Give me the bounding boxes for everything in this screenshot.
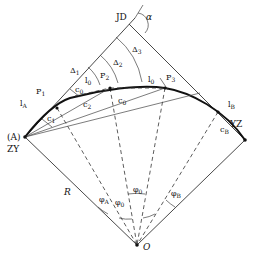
curve-geometry-diagram: JD α (A) ZY YZ O R lA P1 P2 P3 Δ1 Δ2 Δ3 … xyxy=(0,0,261,261)
phiB-arc xyxy=(166,200,175,207)
label-c0a: c0 xyxy=(75,85,83,95)
point-o xyxy=(135,243,139,247)
label-lA: lA xyxy=(20,99,28,109)
label-yz: YZ xyxy=(229,119,242,129)
label-delta1: Δ1 xyxy=(70,66,80,76)
transition-curve xyxy=(25,87,245,140)
label-l0a: l0 xyxy=(85,76,92,86)
label-c1: c1 xyxy=(47,114,55,124)
label-l0b: l0 xyxy=(148,75,155,85)
radius-line-zy xyxy=(25,137,137,245)
phi0a-arc xyxy=(119,218,132,219)
phiA-arc xyxy=(98,207,108,214)
point-p2 xyxy=(108,86,111,89)
phi0c-arc xyxy=(143,214,155,218)
point-zy xyxy=(23,135,27,139)
point-p3 xyxy=(163,86,166,89)
label-a-point: (A) xyxy=(7,132,21,142)
label-c0b: c0 xyxy=(118,96,126,106)
label-p1: P1 xyxy=(36,87,45,97)
label-p2: P2 xyxy=(100,71,109,81)
label-r: R xyxy=(63,187,71,197)
point-pb xyxy=(216,110,219,113)
delta3-arc xyxy=(116,37,142,82)
label-phi0b: φ0 xyxy=(133,185,143,195)
label-phiA: φA xyxy=(99,195,110,205)
label-phi0a: φ0 xyxy=(115,198,125,208)
point-yz xyxy=(243,138,247,142)
label-zy: ZY xyxy=(7,144,20,154)
label-jd: JD xyxy=(115,12,127,22)
point-p1 xyxy=(55,106,58,109)
label-phiB: φB xyxy=(171,189,182,199)
label-p3: P3 xyxy=(166,73,175,83)
tangent-extension xyxy=(135,5,143,18)
label-c2: c2 xyxy=(83,100,91,110)
label-delta3: Δ3 xyxy=(132,45,142,55)
label-o: O xyxy=(143,242,151,252)
label-alpha: α xyxy=(146,12,152,22)
label-lB: lB xyxy=(228,100,236,110)
radius-dashed-p1 xyxy=(57,108,137,245)
label-delta2: Δ2 xyxy=(113,58,123,68)
label-cB: cB xyxy=(220,125,229,135)
tangent-line-jd-yz xyxy=(129,24,245,140)
radius-dashed-p2 xyxy=(110,88,137,245)
